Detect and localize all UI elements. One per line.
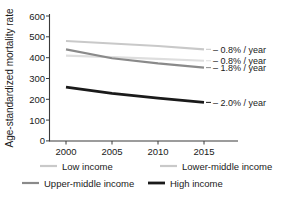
chart-legend: Low income Lower-middle income Upper-mid… bbox=[22, 161, 272, 189]
annotation-label-low-income: – 0.8% / year bbox=[213, 45, 266, 55]
annotation-label-high-income: – 2.0% / year bbox=[213, 98, 266, 108]
legend-label-low-income: Low income bbox=[62, 161, 113, 172]
y-tick-label-200: 200 bbox=[29, 94, 45, 105]
legend-item-low-income[interactable]: Low income bbox=[40, 161, 113, 172]
x-tick-label-2015: 2015 bbox=[193, 146, 214, 157]
series-line-high-income bbox=[66, 87, 204, 102]
x-tick-label-2010: 2010 bbox=[147, 146, 168, 157]
legend-item-upper-middle-income[interactable]: Upper-middle income bbox=[22, 178, 134, 189]
y-tick-label-0: 0 bbox=[40, 135, 45, 146]
annotation-layer: – 0.8% / year – 0.8% / year – 1.8% / yea… bbox=[206, 45, 266, 108]
y-axis-ticks: 600 500 400 300 200 100 0 bbox=[29, 11, 49, 147]
y-tick-label-500: 500 bbox=[29, 31, 45, 42]
legend-item-high-income[interactable]: High income bbox=[148, 178, 223, 189]
y-tick-label-300: 300 bbox=[29, 73, 45, 84]
legend-label-high-income: High income bbox=[170, 178, 223, 189]
y-tick-label-600: 600 bbox=[29, 11, 45, 22]
y-tick-label-100: 100 bbox=[29, 115, 45, 126]
y-tick-label-400: 400 bbox=[29, 52, 45, 63]
y-axis-label: Age-standardized mortality rate bbox=[4, 8, 15, 147]
legend-label-upper-middle-income: Upper-middle income bbox=[44, 178, 134, 189]
legend-item-lower-middle-income[interactable]: Lower-middle income bbox=[160, 161, 272, 172]
y-axis-label-group: Age-standardized mortality rate bbox=[4, 8, 15, 147]
x-axis-ticks: 2000 2005 2010 2015 bbox=[55, 141, 214, 157]
series-layer bbox=[66, 41, 204, 102]
x-tick-label-2005: 2005 bbox=[101, 146, 122, 157]
series-line-low-income bbox=[66, 41, 204, 49]
chart-figure: Age-standardized mortality rate 600 500 … bbox=[0, 0, 301, 201]
line-chart-svg: Age-standardized mortality rate 600 500 … bbox=[0, 0, 301, 201]
legend-label-lower-middle-income: Lower-middle income bbox=[182, 161, 272, 172]
annotation-label-upper-middle-income: – 1.8% / year bbox=[213, 63, 266, 73]
x-tick-label-2000: 2000 bbox=[55, 146, 76, 157]
